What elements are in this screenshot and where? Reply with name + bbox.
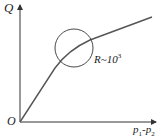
transition-circle xyxy=(55,29,93,67)
annotation-exponent: 3 xyxy=(118,52,122,60)
x-axis-label: p1-p2 xyxy=(133,124,155,138)
y-axis-label: Q xyxy=(4,1,13,14)
annotation-prefix: R~10 xyxy=(94,53,118,65)
diagram-canvas xyxy=(0,0,165,139)
origin-label: O xyxy=(7,115,16,127)
x-label-sub2: 2 xyxy=(151,130,155,138)
reynolds-annotation: R~103 xyxy=(94,53,121,65)
